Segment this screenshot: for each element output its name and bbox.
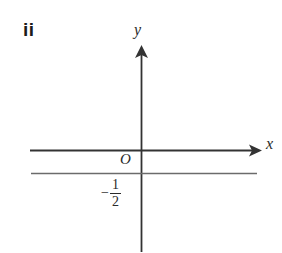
- minus-sign: −: [101, 186, 110, 201]
- y-intercept-label: − 1 2: [101, 178, 121, 209]
- y-axis-label: y: [134, 22, 141, 38]
- part-label: ii: [23, 20, 35, 39]
- fraction-one-half: 1 2: [110, 178, 121, 209]
- fraction-numerator: 1: [110, 178, 121, 193]
- origin-label: O: [120, 152, 131, 167]
- x-axis-label: x: [266, 136, 273, 152]
- fraction-denominator: 2: [110, 194, 121, 209]
- graph-figure: ii y x O − 1 2: [0, 0, 282, 253]
